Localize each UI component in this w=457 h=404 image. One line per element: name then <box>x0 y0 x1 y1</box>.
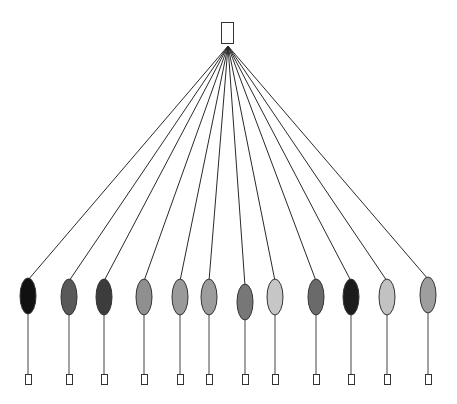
tree-diagram <box>0 0 457 404</box>
leaf-node-10[interactable] <box>349 375 355 385</box>
leaf-node-7[interactable] <box>243 375 249 385</box>
ellipse-node-1[interactable] <box>20 278 36 314</box>
leaf-node-3[interactable] <box>102 375 108 385</box>
nodes-layer <box>20 277 436 320</box>
edge-root-to-node-12 <box>228 46 428 279</box>
edge-root-to-node-9 <box>228 46 316 281</box>
edges-layer <box>28 46 428 286</box>
leaf-node-9[interactable] <box>314 375 320 385</box>
leaves-layer <box>26 375 432 385</box>
edge-root-to-node-3 <box>104 46 228 281</box>
leaf-node-5[interactable] <box>178 375 184 385</box>
stems-layer <box>28 313 428 374</box>
leaf-node-8[interactable] <box>273 375 279 385</box>
ellipse-node-7[interactable] <box>237 284 253 320</box>
root-node[interactable] <box>222 23 234 44</box>
edge-root-to-node-4 <box>144 46 228 281</box>
ellipse-node-3[interactable] <box>96 279 112 315</box>
edge-root-to-node-10 <box>228 46 351 281</box>
ellipse-node-9[interactable] <box>308 279 324 315</box>
leaf-node-1[interactable] <box>26 375 32 385</box>
ellipse-node-4[interactable] <box>136 279 152 315</box>
ellipse-node-2[interactable] <box>61 279 77 315</box>
ellipse-node-8[interactable] <box>267 279 283 315</box>
leaf-node-6[interactable] <box>207 375 213 385</box>
leaf-node-11[interactable] <box>385 375 391 385</box>
ellipse-node-12[interactable] <box>420 277 436 313</box>
ellipse-node-5[interactable] <box>172 279 188 315</box>
ellipse-node-10[interactable] <box>343 279 359 315</box>
tree-diagram-svg <box>0 0 457 404</box>
edge-root-to-node-1 <box>28 46 228 280</box>
edge-root-to-node-7 <box>228 46 245 286</box>
ellipse-node-11[interactable] <box>379 279 395 315</box>
edge-root-to-node-6 <box>209 46 228 281</box>
leaf-node-4[interactable] <box>142 375 148 385</box>
leaf-node-12[interactable] <box>426 375 432 385</box>
leaf-node-2[interactable] <box>67 375 73 385</box>
ellipse-node-6[interactable] <box>201 279 217 315</box>
